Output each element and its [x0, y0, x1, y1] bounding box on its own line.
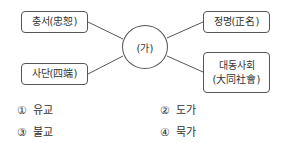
- node-jeongmyeong: 정명(正名): [203, 11, 270, 33]
- choice-2-text: 도가: [176, 104, 196, 117]
- connector-chungseo: [88, 22, 123, 39]
- choice-1-text: 유교: [33, 104, 53, 117]
- node-daedong-label-line1: 대동사회: [219, 59, 255, 73]
- choice-4[interactable]: ④묵가: [160, 123, 196, 139]
- choice-3[interactable]: ③불교: [17, 123, 53, 139]
- center-node-label: (가): [137, 40, 154, 55]
- choice-3-number: ③: [17, 126, 27, 139]
- node-daedong: 대동사회 (大同社會): [203, 52, 270, 93]
- choice-2-number: ②: [160, 104, 170, 117]
- node-jeongmyeong-label: 정명(正名): [214, 15, 260, 29]
- node-sadan: 사단(四端): [21, 63, 88, 85]
- node-daedong-label-line2: (大同社會): [213, 73, 261, 87]
- choice-4-text: 묵가: [176, 126, 196, 139]
- node-chungseo-label: 충서(忠恕): [32, 15, 78, 29]
- connector-daedong: [167, 56, 203, 72]
- choice-1[interactable]: ①유교: [17, 101, 53, 117]
- connector-sadan: [88, 56, 123, 74]
- choice-2[interactable]: ②도가: [160, 101, 196, 117]
- connector-jeongmyeong: [167, 22, 203, 38]
- choice-4-number: ④: [160, 126, 170, 139]
- node-chungseo: 충서(忠恕): [21, 11, 88, 33]
- center-node: (가): [122, 25, 168, 69]
- choice-3-text: 불교: [33, 126, 53, 139]
- node-sadan-label: 사단(四端): [32, 67, 78, 81]
- choice-1-number: ①: [17, 104, 27, 117]
